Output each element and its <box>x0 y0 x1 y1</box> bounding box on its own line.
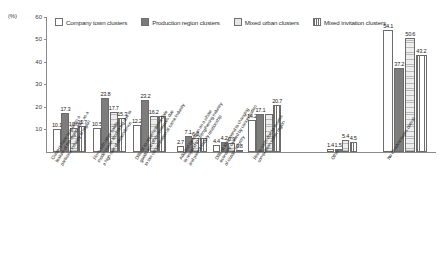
bar-0-2 <box>70 128 78 152</box>
category-label-6: Other <box>330 149 340 161</box>
legend-label-production-region: Production region clusters <box>152 19 220 26</box>
y-tick-50: 50 <box>26 36 42 42</box>
bar-5-2 <box>265 114 273 152</box>
bar-4-1 <box>221 142 228 152</box>
legend-item-mixed-invitation: Mixed invitation clusters <box>313 18 386 26</box>
bar-5-0 <box>248 120 256 152</box>
category-label-5: Rising costs due to excesscompetition wi… <box>252 114 289 164</box>
chart-legend: Company town clusters Production region … <box>55 18 425 26</box>
legend-item-company-town: Company town clusters <box>55 18 127 26</box>
bar-value-4-2: 0.9 <box>226 136 238 142</box>
bar-3-1 <box>185 136 192 152</box>
category-label-4: Difficult to respond to changingeconomy … <box>214 101 263 166</box>
bar-value-5-1: 17.1 <box>254 107 266 113</box>
bar-2-3 <box>158 116 166 152</box>
bar-value-7-3: 43.2 <box>415 48 427 54</box>
bar-value-4-1: 4.2 <box>218 135 230 141</box>
bar-value-2-2: 16.2 <box>148 109 160 115</box>
bar-value-6-1: 1.5 <box>332 142 344 148</box>
legend-label-company-town: Company town clusters <box>66 19 127 26</box>
bar-value-1-3: 15.3 <box>116 111 128 117</box>
bar-1-3 <box>118 118 126 152</box>
bar-value-3-0: 2.7 <box>174 139 186 145</box>
bar-6-3 <box>350 142 357 152</box>
bar-0-1 <box>61 113 69 152</box>
bar-value-1-2: 17.7 <box>108 105 120 111</box>
y-tick-20: 20 <box>26 104 42 110</box>
urban-swatch-icon <box>234 18 242 26</box>
bar-7-2 <box>405 38 415 152</box>
category-label-7: No disadvantages overall <box>386 116 417 161</box>
y-tick-60: 60 <box>26 14 42 20</box>
bar-value-4-3: 0.8 <box>233 143 245 149</box>
category-label-1: Firms with other habitsinside cluster te… <box>92 107 138 167</box>
bar-1-1 <box>101 98 109 152</box>
bar-2-1 <box>141 100 149 152</box>
bar-chart: (%) 60 50 40 30 20 10 Company town clust… <box>0 0 444 254</box>
legend-label-mixed-urban: Mixed urban clusters <box>245 19 299 26</box>
bar-1-2 <box>110 112 118 152</box>
bar-1-0 <box>93 128 101 152</box>
bar-value-6-0: 1.4 <box>324 142 336 148</box>
company-swatch-icon <box>55 18 63 26</box>
x-axis-line <box>46 152 436 153</box>
y-tickmark-60 <box>44 17 47 18</box>
y-tickmark-10 <box>44 129 47 130</box>
y-tickmark-50 <box>44 39 47 40</box>
bar-value-3-1: 7.1 <box>182 129 194 135</box>
y-tickmark-40 <box>44 62 47 63</box>
bar-value-2-1: 23.2 <box>139 93 151 99</box>
bar-2-0 <box>133 125 141 152</box>
bar-3-3 <box>200 138 207 152</box>
bar-value-6-3: 4.5 <box>347 135 359 141</box>
bar-value-0-1: 17.3 <box>59 106 71 112</box>
y-tickmark-20 <box>44 107 47 108</box>
bar-2-2 <box>150 116 158 152</box>
bar-5-3 <box>273 105 281 152</box>
legend-item-mixed-urban: Mixed urban clusters <box>234 18 299 26</box>
bar-value-1-0: 10.5 <box>91 121 103 127</box>
bar-value-3-2: 6.3 <box>190 131 202 137</box>
bar-value-2-0: 12.2 <box>131 118 143 124</box>
y-axis-unit-label: (%) <box>8 13 17 19</box>
y-tick-30: 30 <box>26 81 42 87</box>
invitation-swatch-icon <box>313 18 321 26</box>
bar-value-1-1: 23.8 <box>99 91 111 97</box>
y-tick-40: 40 <box>26 59 42 65</box>
category-labels-layer: Clusters have long been afeature of the … <box>0 0 444 254</box>
category-label-0: Clusters have long been afeature of the … <box>50 108 95 167</box>
category-label-3: Adopted by region as a wholeto respond t… <box>178 99 229 167</box>
bar-4-0 <box>213 145 220 152</box>
y-tick-10: 10 <box>26 126 42 132</box>
bar-value-0-0: 10.1 <box>51 122 63 128</box>
production-swatch-icon <box>141 18 149 26</box>
bar-value-5-0: 14.2 <box>246 113 258 119</box>
bar-3-2 <box>192 138 199 152</box>
bar-value-0-3: 11.7 <box>76 119 88 125</box>
bar-value-7-2: 50.6 <box>404 31 416 37</box>
bar-5-1 <box>256 114 264 152</box>
bar-4-2 <box>228 143 235 152</box>
bar-6-2 <box>342 140 349 152</box>
bar-value-6-2: 5.4 <box>340 133 352 139</box>
category-label-2: Difficult to obtain intermediategoods an… <box>134 97 186 167</box>
bar-7-1 <box>394 68 404 152</box>
bar-value-7-1: 37.2 <box>393 61 405 67</box>
bars-layer: 10.117.310.611.710.523.817.715.312.223.2… <box>0 0 444 254</box>
bar-7-3 <box>416 55 426 152</box>
bar-value-4-0: 4.4 <box>210 138 222 144</box>
y-tickmark-30 <box>44 84 47 85</box>
bar-value-0-2: 10.6 <box>68 121 80 127</box>
bar-value-5-3: 20.7 <box>271 98 283 104</box>
bar-0-0 <box>53 129 61 152</box>
legend-label-mixed-invitation: Mixed invitation clusters <box>324 19 386 26</box>
bar-0-3 <box>78 126 86 152</box>
legend-item-production-region: Production region clusters <box>141 18 220 26</box>
bar-7-0 <box>383 30 393 152</box>
